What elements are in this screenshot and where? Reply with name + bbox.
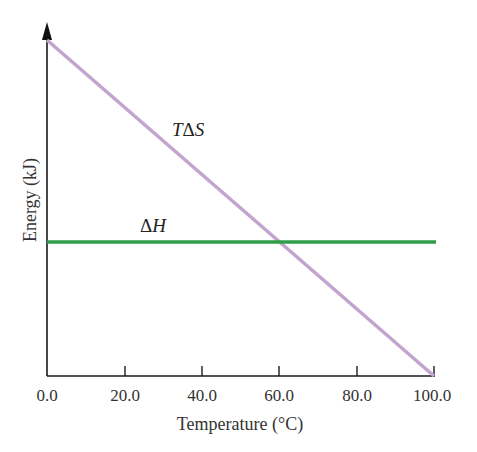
x-tick-label: 80.0 <box>342 386 372 405</box>
series-label-t-delta-s: TΔS <box>172 119 205 140</box>
series-line-t-delta-s <box>47 40 434 376</box>
series-label-delta-h: ΔH <box>140 215 167 236</box>
x-tick-label: 60.0 <box>264 386 294 405</box>
x-tick-label: 0.0 <box>36 386 57 405</box>
x-tick-label: 20.0 <box>110 386 140 405</box>
y-axis-arrow-icon <box>42 22 52 40</box>
x-tick-label: 40.0 <box>187 386 217 405</box>
x-ticks <box>125 366 434 376</box>
y-axis-title: Energy (kJ) <box>20 158 41 242</box>
x-axis-title: Temperature (°C) <box>177 414 303 435</box>
chart: 0.0 20.0 40.0 60.0 80.0 100.0 Temperatur… <box>0 0 477 452</box>
x-tick-label: 100.0 <box>413 386 451 405</box>
